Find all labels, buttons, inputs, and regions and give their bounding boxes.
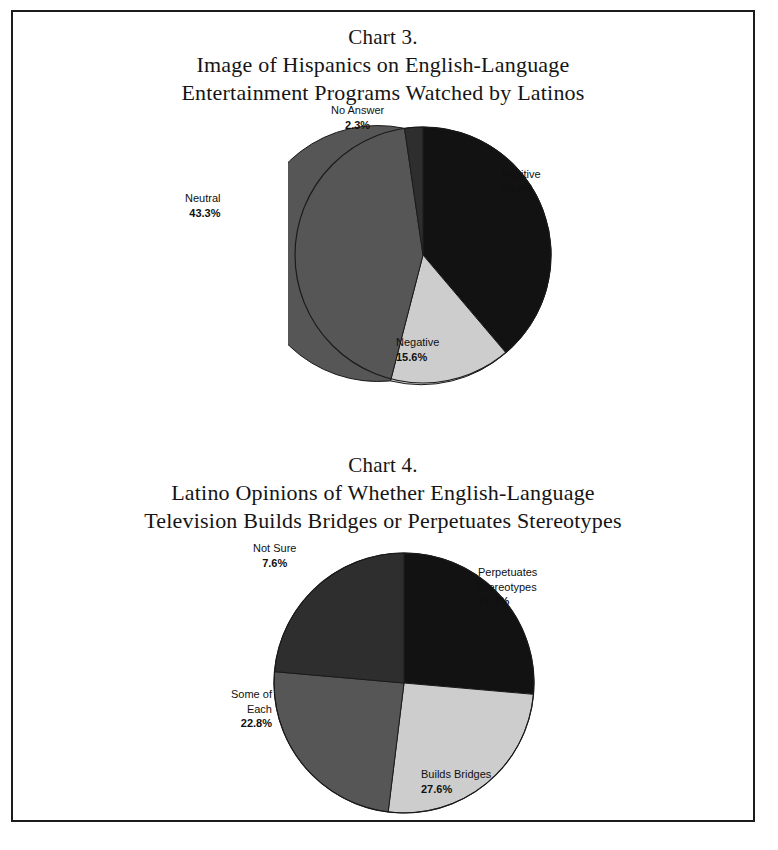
chart-3-label-neutral-name: Neutral	[185, 191, 220, 206]
chart-4-label-perpetuates-pct: 27.7%	[478, 594, 537, 609]
chart-3-title-line-2: Image of Hispanics on English-Language	[13, 51, 753, 79]
chart-4-label-not-sure-name: Not Sure	[253, 541, 296, 556]
chart-3-title-line-1: Chart 3.	[13, 24, 753, 51]
chart-4-label-some-of-each: Some of Each 22.8%	[231, 687, 272, 731]
chart-3-block: Chart 3. Image of Hispanics on English-L…	[13, 24, 753, 397]
chart-4-slice-some-of-each	[274, 672, 404, 812]
chart-4-plot-area: Not Sure 7.6% Perpetuates Stereotypes 27…	[13, 535, 753, 845]
chart-3-label-negative: Negative 15.6%	[396, 335, 439, 364]
chart-4-title-line-1: Chart 4.	[13, 452, 753, 479]
chart-3-label-negative-pct: 15.6%	[396, 350, 439, 365]
chart-4-title-line-2: Latino Opinions of Whether English-Langu…	[13, 479, 753, 507]
chart-3-plot-area: No Answer 2.3% Positive 38.8% Neutral 43…	[13, 107, 753, 397]
chart-3-label-negative-name: Negative	[396, 335, 439, 350]
chart-4-label-perpetuates-line-2: Stereotypes	[478, 580, 537, 595]
chart-4-label-builds-bridges-pct: 27.6%	[421, 782, 491, 797]
chart-4-title-line-3: Television Builds Bridges or Perpetuates…	[13, 507, 753, 535]
chart-4-label-some-of-each-line-2: Each	[231, 702, 272, 717]
chart-4-label-perpetuates-line-1: Perpetuates	[478, 565, 537, 580]
chart-4-label-not-sure-pct: 7.6%	[253, 556, 296, 571]
chart-3-label-no-answer-pct: 2.3%	[331, 118, 384, 133]
page-frame: Chart 3. Image of Hispanics on English-L…	[11, 10, 755, 822]
chart-4-label-some-of-each-pct: 22.8%	[231, 716, 272, 731]
chart-4-label-builds-bridges-name: Builds Bridges	[421, 767, 491, 782]
chart-3-label-positive-name: Positive	[502, 167, 541, 182]
chart-4-label-builds-bridges: Builds Bridges 27.6%	[421, 767, 491, 796]
chart-3-label-no-answer-name: No Answer	[331, 103, 384, 118]
chart-3-label-neutral: Neutral 43.3%	[185, 191, 220, 220]
chart-4-label-not-sure: Not Sure 7.6%	[253, 541, 296, 570]
chart-3-label-neutral-pct: 43.3%	[185, 206, 220, 221]
chart-4-label-perpetuates-stereotypes: Perpetuates Stereotypes 27.7%	[478, 565, 537, 609]
chart-4-label-some-of-each-line-1: Some of	[231, 687, 272, 702]
chart-4-title: Chart 4. Latino Opinions of Whether Engl…	[13, 452, 753, 535]
chart-3-title: Chart 3. Image of Hispanics on English-L…	[13, 24, 753, 107]
chart-3-label-positive-pct: 38.8%	[502, 182, 541, 197]
chart-4-block: Chart 4. Latino Opinions of Whether Engl…	[13, 452, 753, 845]
chart-4-slice-not-sure	[274, 553, 404, 683]
chart-3-label-positive: Positive 38.8%	[502, 167, 541, 196]
chart-3-label-no-answer: No Answer 2.3%	[331, 103, 384, 132]
